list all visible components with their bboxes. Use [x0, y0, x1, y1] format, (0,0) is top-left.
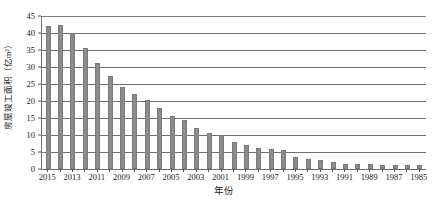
bar	[232, 142, 237, 169]
bar	[194, 128, 199, 169]
y-axis-tick-label: 15	[27, 114, 36, 123]
y-axis-tick-label: 20	[27, 97, 36, 106]
x-axis-title-text: 年份	[214, 186, 234, 196]
bar	[120, 87, 125, 169]
x-axis-tick-label: 1997	[262, 172, 279, 182]
y-axis-tick-label: 40	[27, 29, 36, 38]
x-axis-tick-label: 1987	[386, 172, 403, 182]
bar	[157, 108, 162, 169]
x-axis-tick-label: 1993	[311, 172, 328, 182]
bar	[95, 63, 100, 169]
y-axis-tick-label: 10	[27, 131, 36, 140]
y-axis-tick-mark	[38, 16, 41, 17]
bar	[331, 162, 336, 169]
y-axis-tick-mark	[38, 152, 41, 153]
bar	[83, 48, 88, 169]
bar	[219, 135, 224, 169]
bar	[46, 26, 51, 169]
plot-area	[41, 16, 426, 170]
bar	[207, 133, 212, 169]
x-axis-tick-label: 2015	[39, 172, 56, 182]
bar	[281, 150, 286, 169]
bar	[108, 76, 113, 170]
y-axis-tick-label: 25	[27, 80, 36, 89]
x-axis-tick-label: 2009	[113, 172, 130, 182]
y-axis-tick-mark	[38, 67, 41, 68]
bar	[318, 160, 323, 169]
x-axis-tick-label: 2011	[88, 172, 105, 182]
y-axis-tick-mark	[38, 84, 41, 85]
bar	[269, 149, 274, 169]
bar	[70, 33, 75, 169]
x-axis-tick-label: 2013	[63, 172, 80, 182]
x-axis-tick-label: 2001	[212, 172, 229, 182]
x-axis-tick-labels: 2015201320112009200720052003200119991997…	[0, 172, 447, 186]
y-axis-tick-mark	[38, 169, 41, 170]
bar	[293, 157, 298, 169]
y-axis-title: 房屋竣工面积（亿m²）	[0, 0, 16, 170]
x-axis-tick-label: 2005	[163, 172, 180, 182]
y-axis-tick-label: 5	[31, 148, 35, 157]
bar	[244, 145, 249, 169]
bar	[58, 25, 63, 169]
bar-chart-figure: 房屋竣工面积（亿m²） 051015202530354045 201520132…	[0, 0, 447, 208]
bar-series	[42, 16, 426, 169]
y-axis-tick-label: 30	[27, 63, 36, 72]
x-axis-title: 年份	[0, 186, 447, 197]
y-axis-tick-mark	[38, 135, 41, 136]
y-axis-title-text: 房屋竣工面积（亿m²）	[4, 40, 13, 130]
x-axis-tick-label: 2003	[187, 172, 204, 182]
bar	[256, 148, 261, 169]
x-axis-tick-label: 1991	[336, 172, 353, 182]
bar	[182, 120, 187, 169]
bar	[145, 100, 150, 169]
bar	[306, 159, 311, 169]
x-axis-tick-label: 2007	[138, 172, 155, 182]
x-axis-tick-label: 1989	[361, 172, 378, 182]
y-axis-tick-mark	[38, 50, 41, 51]
bar	[132, 94, 137, 169]
y-axis-tick-label: 45	[27, 12, 36, 21]
x-axis-tick-label: 1999	[237, 172, 254, 182]
bar	[170, 116, 175, 169]
y-axis-tick-label: 35	[27, 46, 36, 55]
y-axis-tick-mark	[38, 33, 41, 34]
y-axis-tick-mark	[38, 118, 41, 119]
x-axis-tick-label: 1985	[410, 172, 427, 182]
y-axis-tick-mark	[38, 101, 41, 102]
x-axis-tick-label: 1995	[286, 172, 303, 182]
